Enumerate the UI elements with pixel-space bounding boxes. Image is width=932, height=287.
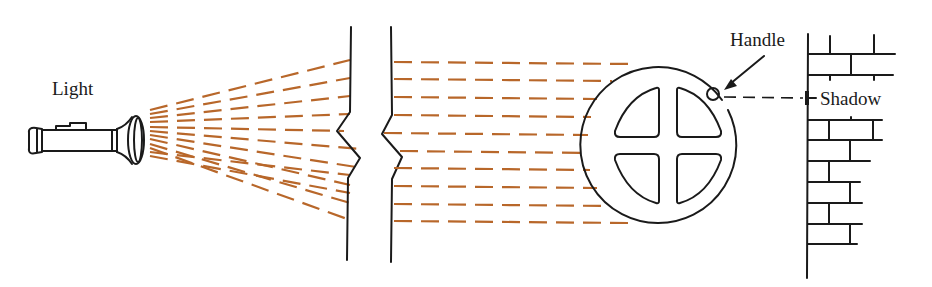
wheel [580,67,736,223]
handle-label: Handle [730,29,785,50]
brick-wall [807,34,895,278]
flashlight-icon [29,116,144,164]
diverging-beams [150,60,360,220]
shadow-projection-line [724,97,803,98]
broken-barrier [337,27,402,262]
parallel-beams [384,62,632,223]
light-shadow-diagram: Light [0,0,932,287]
light-label: Light [52,78,94,99]
handle-arrow-icon [724,56,764,90]
shadow-label: Shadow [820,88,882,109]
